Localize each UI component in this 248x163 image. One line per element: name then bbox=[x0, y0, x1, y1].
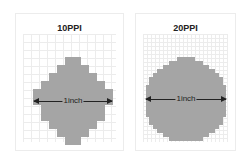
panel-title: 10PPI bbox=[16, 23, 123, 33]
arrow-label: 1inch bbox=[62, 96, 83, 105]
panel-title: 20PPI bbox=[136, 23, 235, 33]
arrow-label: 1inch bbox=[175, 94, 196, 103]
panel-10ppi: 10PPI 1inch bbox=[15, 13, 124, 151]
panel-20ppi: 20PPI 1inch bbox=[135, 13, 236, 151]
